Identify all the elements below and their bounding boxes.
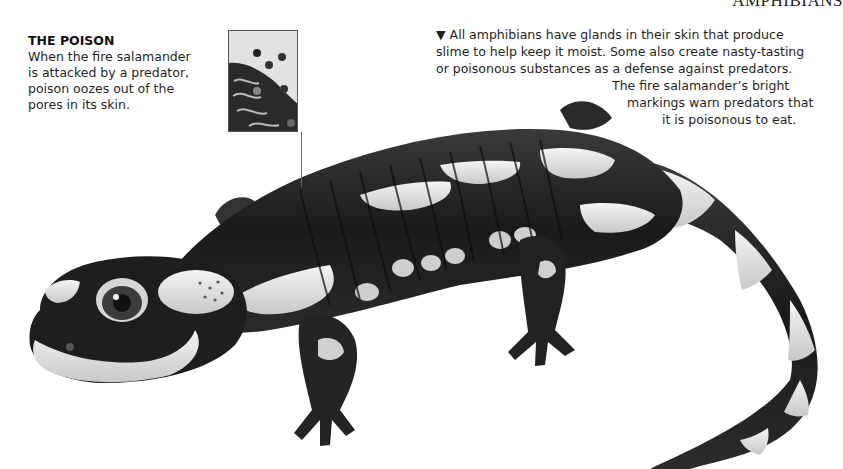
main-caption-line-3: or poisonous substances as a defense aga… xyxy=(436,60,836,77)
skin-closeup-icon xyxy=(229,31,298,132)
skin-pores-inset xyxy=(228,30,298,132)
callout-leader-line xyxy=(301,132,302,187)
triangle-marker-icon: ▼ xyxy=(436,27,446,42)
main-caption-line-1: ▼ All amphibians have glands in their sk… xyxy=(436,26,836,43)
warning-caption-line: it is poisonous to eat. xyxy=(662,111,796,128)
main-caption-line-2: slime to help keep it moist. Some also c… xyxy=(436,43,836,60)
main-caption-text: All amphibians have glands in their skin… xyxy=(450,27,784,42)
warning-caption-line: The fire salamander’s bright xyxy=(612,77,789,94)
main-caption: ▼ All amphibians have glands in their sk… xyxy=(436,26,836,77)
warning-caption-line: markings warn predators that xyxy=(627,94,813,111)
